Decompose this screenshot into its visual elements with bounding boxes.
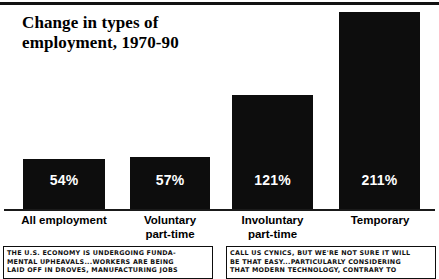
- employment-bar-chart-figure: Change in types of employment, 1970-90 5…: [0, 0, 439, 279]
- bar-value-label: 211%: [339, 172, 420, 188]
- caption-panel-left: THE U.S. ECONOMY IS UNDERGOING FUNDA- ME…: [3, 246, 213, 279]
- plot-area: 54% All employment 57% Voluntary part-ti…: [0, 0, 439, 212]
- caption-text-right: CALL US CYNICS, BUT WE'RE NOT SURE IT WI…: [230, 249, 432, 275]
- category-label-voluntary-part-time: Voluntary part-time: [115, 214, 225, 241]
- bar-involuntary-part-time: 121%: [232, 95, 313, 209]
- bar-voluntary-part-time: 57%: [130, 157, 210, 209]
- bar-value-label: 54%: [23, 172, 105, 188]
- bar-all-employment: 54%: [23, 159, 105, 209]
- category-label-temporary: Temporary: [330, 214, 430, 228]
- caption-text-left: THE U.S. ECONOMY IS UNDERGOING FUNDA- ME…: [7, 249, 209, 275]
- bar-value-label: 121%: [232, 172, 313, 188]
- x-axis-baseline: [4, 209, 435, 211]
- category-label-all-employment: All employment: [3, 214, 125, 228]
- bar-temporary: 211%: [339, 12, 420, 209]
- caption-panel-right: CALL US CYNICS, BUT WE'RE NOT SURE IT WI…: [226, 246, 436, 279]
- bar-value-label: 57%: [130, 172, 210, 188]
- category-label-involuntary-part-time: Involuntary part-time: [217, 214, 328, 241]
